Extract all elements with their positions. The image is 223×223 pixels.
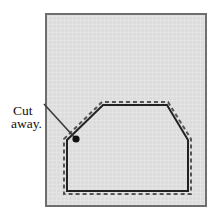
callout-arrow-dot [72,135,79,142]
cut-away-diagram: Cut away. [0,0,223,223]
figure-container: Cut away. [0,0,223,223]
callout-label-line-2: away. [11,116,42,131]
